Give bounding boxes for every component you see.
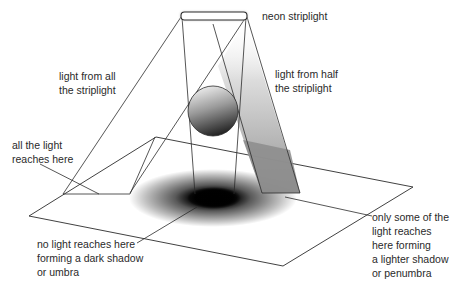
shadow-diagram: neon striplight light from all the strip… xyxy=(0,0,462,290)
sphere xyxy=(188,86,238,136)
label-some-light-reaches: only some of the light reaches here form… xyxy=(372,210,449,280)
label-light-from-all: light from all the striplight xyxy=(59,69,116,97)
striplight xyxy=(181,12,247,20)
label-neon-striplight: neon striplight xyxy=(262,9,327,23)
label-light-from-half: light from half the striplight xyxy=(275,67,338,95)
label-no-light-reaches: no light reaches here forming a dark sha… xyxy=(37,237,143,279)
label-all-light-reaches: all the light reaches here xyxy=(12,138,73,166)
